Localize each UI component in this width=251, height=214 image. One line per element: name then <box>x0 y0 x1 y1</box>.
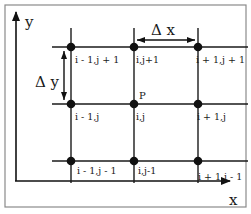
node-label: i - 1,j + 1 <box>75 54 119 65</box>
node-label: i,j-1 <box>138 165 156 176</box>
node-i-j+1 <box>130 43 139 52</box>
node-i-1-j+1 <box>67 43 76 52</box>
node-i-j-P <box>130 100 139 109</box>
dy-label: Δ y <box>35 73 60 91</box>
node-label: i + 1,j <box>197 111 226 122</box>
node-label: i - 1,j - 1 <box>77 165 117 176</box>
node-i+1-j-1 <box>194 157 203 166</box>
node-i-1-j-1 <box>67 157 76 166</box>
node-i+1-j <box>194 100 203 109</box>
center-point-label: P <box>139 90 146 101</box>
node-label: i,j+1 <box>136 54 159 65</box>
node-label: i,j <box>136 111 145 122</box>
dx-label: Δ x <box>151 21 176 39</box>
node-i-1-j <box>67 100 76 109</box>
x-axis-label: x <box>229 191 238 209</box>
node-label: i + 1,j - 1 <box>198 171 242 182</box>
node-i+1-j+1 <box>194 43 203 52</box>
node-label: i - 1,j <box>75 111 99 122</box>
node-i-j-1 <box>130 157 139 166</box>
finite-difference-grid-diagram: y x Δ x Δ y <box>0 0 251 214</box>
node-label: i + 1,j + 1 <box>196 54 245 65</box>
y-axis-label: y <box>24 13 34 31</box>
